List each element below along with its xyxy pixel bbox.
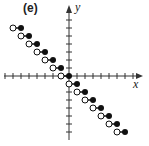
- closed-endpoint: [34, 41, 40, 47]
- plot-area: [0, 0, 149, 146]
- open-endpoint: [90, 105, 96, 111]
- panel-label: (e): [23, 1, 38, 15]
- open-endpoint: [10, 25, 16, 31]
- open-endpoint: [34, 49, 40, 55]
- closed-endpoint: [42, 49, 48, 55]
- closed-endpoint: [58, 65, 64, 71]
- x-axis-label: x: [133, 77, 138, 92]
- open-endpoint: [98, 113, 104, 119]
- y-axis-label: y: [75, 0, 80, 15]
- closed-endpoint: [82, 89, 88, 95]
- closed-endpoint: [66, 73, 72, 79]
- closed-endpoint: [114, 121, 120, 127]
- open-endpoint: [114, 129, 120, 135]
- closed-endpoint: [74, 81, 80, 87]
- closed-endpoint: [90, 97, 96, 103]
- closed-endpoint: [50, 57, 56, 63]
- closed-endpoint: [106, 113, 112, 119]
- closed-endpoint: [122, 129, 128, 135]
- closed-endpoint: [98, 105, 104, 111]
- open-endpoint: [106, 121, 112, 127]
- y-axis-arrow-icon: [66, 5, 72, 13]
- open-endpoint: [82, 97, 88, 103]
- open-endpoint: [42, 57, 48, 63]
- open-endpoint: [66, 81, 72, 87]
- step-function-figure: (e) y x: [0, 0, 149, 146]
- closed-endpoint: [18, 25, 24, 31]
- closed-endpoint: [26, 33, 32, 39]
- open-endpoint: [74, 89, 80, 95]
- open-endpoint: [26, 41, 32, 47]
- open-endpoint: [58, 73, 64, 79]
- open-endpoint: [50, 65, 56, 71]
- open-endpoint: [18, 33, 24, 39]
